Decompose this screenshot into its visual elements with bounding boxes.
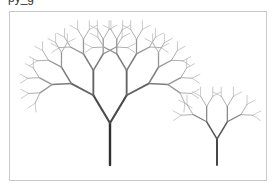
tree-branch — [181, 68, 187, 78]
tree-branch — [221, 96, 227, 106]
tree-branch — [85, 44, 93, 48]
tree-branch — [128, 48, 135, 53]
tree-branch — [145, 39, 153, 43]
tree-branch — [33, 68, 39, 78]
tree-branch — [168, 85, 180, 93]
tree-branch — [159, 60, 172, 67]
tree-branch — [137, 47, 150, 54]
tree-branch — [39, 78, 52, 85]
tree-branch — [70, 47, 83, 54]
tree-branch — [217, 122, 227, 139]
tree-branch — [191, 93, 198, 98]
fractal-tree-drawing — [0, 0, 272, 189]
tree-branch — [192, 78, 199, 83]
tree-branch — [174, 115, 182, 120]
tree-branch — [43, 50, 49, 60]
small-fractal-tree — [173, 87, 261, 165]
tree-branch — [149, 67, 159, 83]
tree-branch — [35, 93, 40, 103]
tree-branch — [61, 67, 71, 83]
tree-branch — [127, 54, 137, 70]
tree-branch — [40, 85, 52, 93]
tree-branch — [59, 47, 70, 48]
large-fractal-tree — [20, 21, 200, 165]
tree-branch — [127, 84, 149, 96]
tree-branch — [149, 84, 168, 85]
tree-branch — [90, 33, 98, 37]
tree-branch — [207, 96, 213, 106]
tree-branch — [35, 46, 43, 50]
tree-branch — [173, 111, 181, 115]
tree-branch — [193, 92, 201, 96]
tree-branch — [137, 29, 143, 39]
tree-branch — [227, 96, 233, 106]
tree-branch — [179, 100, 187, 104]
tree-branch — [180, 93, 191, 94]
tree-branch — [177, 46, 185, 50]
tree-branch — [21, 89, 29, 93]
tree-branch — [93, 54, 103, 70]
tree-branch — [207, 122, 217, 139]
tree-branch — [85, 48, 92, 53]
tree-branch — [241, 115, 253, 116]
tree-branch — [52, 48, 59, 53]
tree-branch — [172, 60, 183, 61]
tree-branch — [142, 25, 150, 29]
tree-branch — [71, 84, 93, 96]
tree-branch — [201, 96, 207, 106]
tree-branch — [28, 103, 35, 108]
tree-branch — [57, 33, 65, 37]
tree-branch — [48, 39, 56, 43]
tree-branch — [191, 89, 199, 93]
tree-branch — [161, 48, 168, 53]
tree-branch — [103, 25, 111, 29]
tree-branch — [83, 29, 89, 39]
tree-branch — [233, 92, 241, 96]
tree-branch — [193, 115, 207, 122]
tree-branch — [29, 93, 40, 94]
tree-branch — [131, 29, 137, 39]
tree-branch — [168, 78, 181, 85]
tree-branch — [37, 60, 48, 61]
tree-branch — [192, 74, 200, 78]
tree-branch — [181, 78, 192, 79]
tree-branch — [67, 39, 75, 43]
tree-branch — [110, 95, 127, 123]
tree-branch — [122, 33, 130, 37]
tree-branch — [164, 39, 172, 43]
tree-branch — [35, 103, 36, 112]
tree-branch — [184, 103, 185, 112]
tree-branch — [70, 25, 78, 29]
tree-branch — [21, 78, 28, 83]
tree-branch — [187, 104, 193, 114]
tree-branch — [181, 115, 193, 116]
tree-branch — [180, 93, 185, 103]
tree-branch — [227, 115, 241, 122]
tree-branch — [253, 111, 261, 115]
tree-branch — [117, 54, 127, 70]
tree-branch — [52, 84, 71, 85]
tree-branch — [128, 44, 136, 48]
tree-branch — [103, 29, 109, 39]
tree-branch — [253, 115, 261, 120]
tree-branch — [48, 60, 61, 67]
tree-branch — [111, 29, 117, 39]
tree-branch — [155, 33, 163, 37]
tree-branch — [116, 47, 127, 48]
tree-branch — [20, 74, 28, 78]
tree-branch — [93, 95, 110, 123]
tree-branch — [172, 50, 178, 60]
tree-branch — [78, 29, 84, 39]
tree-branch — [21, 93, 28, 98]
tree-branch — [241, 104, 247, 114]
tree-branch — [92, 47, 103, 48]
tree-branch — [247, 100, 255, 104]
tree-branch — [28, 78, 39, 79]
tree-branch — [83, 54, 93, 70]
